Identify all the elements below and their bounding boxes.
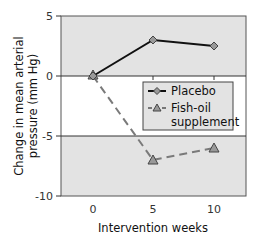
y-axis-label-line1: Change in mean arterial — [12, 36, 26, 176]
y-tick: -5 — [42, 130, 53, 143]
x-axis-label: Intervention weeks — [98, 221, 208, 235]
x-tick: 10 — [207, 203, 221, 216]
y-tick: 0 — [46, 70, 53, 83]
band-negative — [61, 136, 246, 196]
legend-placebo: Placebo — [171, 84, 216, 98]
legend: Placebo Fish-oil supplement — [143, 82, 240, 130]
legend-fish-oil-line2: supplement — [171, 115, 240, 129]
x-tick: 0 — [90, 203, 97, 216]
y-tick: -10 — [35, 190, 53, 203]
y-axis-label-line2: pressure (mm Hg) — [26, 54, 40, 158]
x-tick: 5 — [150, 203, 157, 216]
legend-fish-oil: Fish-oil — [171, 101, 211, 115]
chart: 5 0 -5 -10 0 5 10 Intervention weeks Cha… — [0, 0, 261, 239]
y-tick: 5 — [46, 10, 53, 23]
